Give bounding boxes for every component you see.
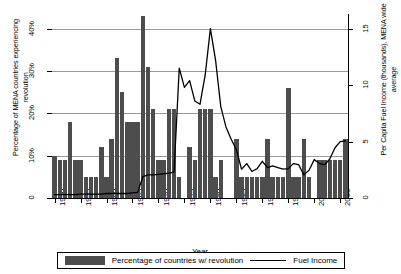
bar: [265, 139, 269, 198]
x-tick: [210, 198, 211, 203]
bar: [198, 109, 202, 198]
bar: [151, 109, 155, 198]
y-tick-label-right: 15: [361, 17, 370, 39]
y-tick-label-right: 5: [361, 130, 370, 152]
x-tick: [158, 198, 159, 203]
bar: [245, 177, 249, 198]
bar: [58, 160, 62, 198]
y-tick-label-left: 0: [27, 183, 36, 213]
bar: [135, 122, 139, 198]
bar: [172, 109, 176, 198]
y-tick-label-right: 0: [361, 187, 370, 209]
bar: [104, 177, 108, 198]
bar: [130, 122, 134, 198]
plot-area: 010%20%30%40% 051015 1950195519601965197…: [52, 14, 348, 198]
bar: [78, 160, 82, 198]
x-tick: [81, 198, 82, 203]
y-axis-right-line: [348, 14, 349, 198]
bar: [120, 92, 124, 198]
y-tick-right: [348, 85, 353, 86]
bar: [193, 160, 197, 198]
bar: [187, 147, 191, 198]
bar: [213, 177, 217, 198]
bar: [99, 147, 103, 198]
bar: [322, 160, 326, 198]
chart-legend: Percentage of countries w/ revolution Fu…: [57, 252, 345, 269]
bar: [234, 139, 238, 198]
bar: [89, 177, 93, 198]
x-tick: [184, 198, 185, 203]
legend-bar-swatch: [65, 256, 105, 265]
x-tick: [236, 198, 237, 203]
bar: [63, 160, 67, 198]
x-tick: [55, 198, 56, 203]
y-tick-right: [348, 142, 353, 143]
bar: [84, 177, 88, 198]
legend-line-swatch: [250, 260, 286, 261]
bar: [343, 139, 347, 198]
bar: [141, 16, 145, 198]
bar: [338, 160, 342, 198]
x-tick: [340, 198, 341, 203]
bar: [161, 160, 165, 198]
bar: [333, 160, 337, 198]
y-tick-label-left: 30%: [27, 56, 36, 86]
bar: [239, 177, 243, 198]
chart-container: Percentage of MENA countries experiencin…: [0, 0, 401, 274]
bar: [281, 177, 285, 198]
bar: [276, 177, 280, 198]
legend-label-revolution: Percentage of countries w/ revolution: [112, 256, 244, 265]
x-tick: [107, 198, 108, 203]
y-tick-left: [47, 198, 52, 199]
y-tick-label-left: 20%: [27, 98, 36, 128]
bar: [219, 160, 223, 198]
bar: [94, 177, 98, 198]
bar: [125, 122, 129, 198]
bar: [302, 139, 306, 198]
bar-series: [52, 14, 348, 198]
bar: [156, 160, 160, 198]
bar: [146, 67, 150, 198]
bar: [296, 177, 300, 198]
bar: [317, 160, 321, 198]
bar: [208, 109, 212, 198]
x-tick: [314, 198, 315, 203]
bar: [307, 177, 311, 198]
bar: [328, 160, 332, 198]
bar: [73, 160, 77, 198]
legend-label-fuel-income: Fuel Income: [293, 256, 337, 265]
bar: [203, 109, 207, 198]
y-tick-label-left: 40%: [27, 13, 36, 43]
x-tick: [288, 198, 289, 203]
bar: [291, 177, 295, 198]
bar: [250, 177, 254, 198]
bar: [52, 156, 56, 198]
bar: [177, 177, 181, 198]
bar: [286, 88, 290, 198]
bar: [260, 177, 264, 198]
bar: [109, 139, 113, 198]
x-tick: [132, 198, 133, 203]
bar: [167, 109, 171, 198]
x-tick: [262, 198, 263, 203]
x-axis-line: [52, 198, 348, 199]
y-tick-label-right: 10: [361, 74, 370, 96]
y-tick-right: [348, 29, 353, 30]
bar: [270, 177, 274, 198]
bar: [255, 177, 259, 198]
y-tick-label-left: 10%: [27, 140, 36, 170]
y-axis-right-title: Per Capita Fuel Income (thousands), MENA…: [379, 0, 398, 160]
bar: [115, 58, 119, 198]
bar: [68, 122, 72, 198]
